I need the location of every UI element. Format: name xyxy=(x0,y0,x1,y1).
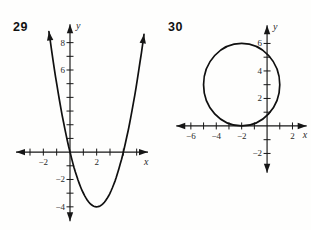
y-tick-label: 4 xyxy=(258,66,263,76)
y-axis-letter: y xyxy=(75,20,81,31)
x-tick-label: −6 xyxy=(186,131,196,141)
figure-29-parabola-graph: −22−4−268xy xyxy=(10,18,150,226)
x-tick-label: −4 xyxy=(211,131,221,141)
y-tick-label: 8 xyxy=(61,38,66,48)
y-tick-label: −4 xyxy=(55,202,65,212)
y-axis-letter: y xyxy=(272,21,278,32)
y-axis-arrow-down-icon xyxy=(67,212,73,221)
y-tick-label: 2 xyxy=(258,93,263,103)
figure-30-circle-graph: −6−4−22−2246xy xyxy=(160,18,310,183)
x-axis-arrow-left-icon xyxy=(16,149,25,155)
x-tick-label: −2 xyxy=(39,157,49,167)
x-tick-label: 2 xyxy=(94,157,99,167)
x-tick-label: −2 xyxy=(237,131,247,141)
x-axis-arrow-right-icon xyxy=(139,149,148,155)
x-axis-letter: x xyxy=(302,129,308,140)
x-axis-arrow-left-icon xyxy=(176,123,185,129)
x-tick-label: 2 xyxy=(290,131,295,141)
x-axis-letter: x xyxy=(143,156,149,167)
x-axis-arrow-right-icon xyxy=(298,123,307,129)
y-axis-arrow-up-icon xyxy=(264,25,270,34)
y-tick-label: 6 xyxy=(61,65,66,75)
textbook-graph-figures: 29 30 −22−4−268xy −6−4−22−2246xy xyxy=(0,0,311,230)
y-tick-label: −2 xyxy=(55,174,65,184)
y-axis-arrow-up-icon xyxy=(67,24,73,33)
y-tick-label: −2 xyxy=(252,148,262,158)
y-axis-arrow-down-icon xyxy=(264,164,270,173)
